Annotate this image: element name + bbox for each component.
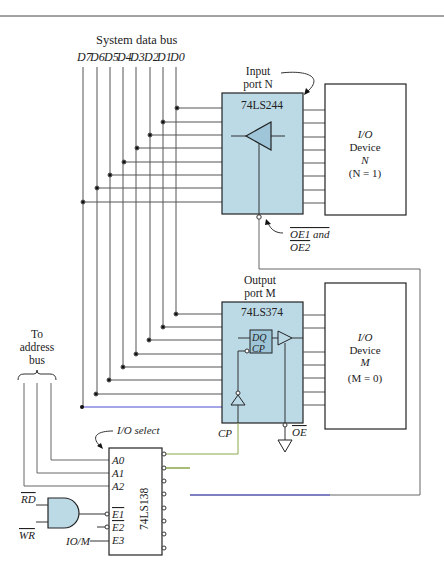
svg-text:(N = 1): (N = 1) xyxy=(349,167,382,180)
svg-text:I/O: I/O xyxy=(357,331,373,343)
brace-icon xyxy=(18,370,56,380)
output-port-wires xyxy=(94,312,222,396)
bit-label: D6 xyxy=(89,50,105,64)
svg-text:A2: A2 xyxy=(111,480,125,492)
output-port-chip: 74LS374 DQ CP xyxy=(222,302,303,423)
svg-text:(M = 0): (M = 0) xyxy=(348,372,383,385)
svg-text:A0: A0 xyxy=(111,454,125,466)
svg-text:Device: Device xyxy=(349,141,380,153)
svg-text:N: N xyxy=(360,154,369,166)
input-port-wires xyxy=(81,106,222,204)
svg-text:Output: Output xyxy=(244,274,277,287)
svg-text:port N: port N xyxy=(243,78,273,91)
svg-text:address: address xyxy=(20,341,55,353)
address-wires xyxy=(24,383,109,486)
input-device-wires xyxy=(303,110,325,203)
svg-text:74LS374: 74LS374 xyxy=(241,306,283,318)
io-device-n: I/O Device N (N = 1) xyxy=(325,84,406,215)
io-port-diagram: System data bus D7 D6 D5 D4 D3 D2 D1 D0 xyxy=(0,0,444,587)
input-port-chip: 74LS244 xyxy=(222,93,303,219)
rd-label: RD xyxy=(20,493,36,505)
svg-text:To: To xyxy=(31,328,43,340)
bit-label: D0 xyxy=(169,50,185,64)
svg-text:Input: Input xyxy=(246,65,271,78)
svg-text:DQ: DQ xyxy=(251,332,267,343)
oe1-oe2-label: OE1 and xyxy=(290,228,330,240)
curved-arrow-icon xyxy=(281,72,314,92)
system-data-bus-title: System data bus xyxy=(96,33,177,47)
svg-text:E3: E3 xyxy=(111,534,125,546)
svg-text:CP: CP xyxy=(252,343,265,354)
svg-text:I/O: I/O xyxy=(357,128,373,140)
inverting-bubble-icon xyxy=(257,215,261,219)
svg-text:A1: A1 xyxy=(111,467,124,479)
output-device-wires xyxy=(303,315,325,405)
decoder-chip-label: 74LS138 xyxy=(138,488,150,530)
svg-text:E1: E1 xyxy=(111,508,124,520)
ground-icon xyxy=(278,440,292,452)
decoder-74ls138: A0 A1 A2 E1 E2 E3 74LS138 xyxy=(90,448,190,555)
io-m-label: IO/M xyxy=(65,535,91,547)
svg-text:E2: E2 xyxy=(111,521,125,533)
io-device-m: I/O Device M (M = 0) xyxy=(325,283,406,429)
svg-text:OE2: OE2 xyxy=(290,241,311,253)
svg-text:Device: Device xyxy=(349,344,380,356)
chip-label-74ls244: 74LS244 xyxy=(241,99,283,111)
and-gate-icon xyxy=(48,498,79,528)
cp-label: CP xyxy=(218,427,232,439)
wr-label: WR xyxy=(19,529,35,541)
data-bit-labels: D7 D6 D5 D4 D3 D2 D1 D0 xyxy=(76,50,185,64)
io-select-label: I/O select xyxy=(116,424,160,436)
bit-label: D3 xyxy=(129,50,145,64)
data-bus-lines xyxy=(83,67,176,407)
svg-text:bus: bus xyxy=(29,354,46,366)
svg-text:M: M xyxy=(359,356,370,368)
svg-text:port M: port M xyxy=(244,287,276,300)
oe-label: OE xyxy=(292,426,307,438)
